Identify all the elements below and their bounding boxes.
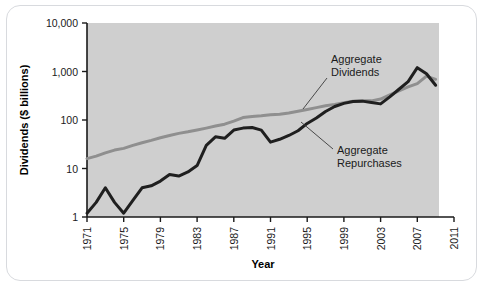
annotation-label: Aggregate	[331, 53, 382, 65]
y-tick-label: 1,000	[52, 66, 78, 78]
x-tick-label: 2007	[411, 227, 423, 251]
annotation-label: Aggregate	[337, 144, 388, 156]
x-axis-ticks-group: 1971197519791983198719911995199920032007…	[81, 217, 460, 250]
x-tick-label: 1987	[228, 227, 240, 251]
figure-card: 10,0001,000100101 1971197519791983198719…	[6, 5, 477, 281]
annotation-label: Repurchases	[337, 157, 402, 169]
annotation-label: Dividends	[331, 66, 380, 78]
x-axis-title: Year	[251, 258, 275, 270]
x-tick-label: 2011	[448, 227, 460, 250]
x-tick-label: 2003	[375, 227, 387, 251]
y-axis-title: Dividends ($ billions)	[18, 64, 30, 175]
x-tick-label: 1995	[301, 227, 313, 251]
x-tick-label: 1983	[191, 227, 203, 251]
y-tick-label: 1	[72, 211, 78, 223]
y-tick-label: 100	[60, 114, 78, 126]
x-tick-label: 1979	[154, 227, 166, 251]
y-tick-label: 10,000	[46, 17, 78, 29]
x-tick-label: 1971	[81, 227, 93, 251]
x-tick-label: 1991	[265, 227, 277, 251]
x-tick-label: 1975	[118, 227, 130, 251]
y-axis-ticks-group: 10,0001,000100101	[46, 17, 87, 223]
plot-area-background	[87, 23, 439, 217]
plot-background-group	[87, 23, 439, 217]
y-tick-label: 10	[66, 163, 78, 175]
dividends-repurchases-log-chart: 10,0001,000100101 1971197519791983198719…	[7, 6, 478, 282]
x-tick-label: 1999	[338, 227, 350, 251]
